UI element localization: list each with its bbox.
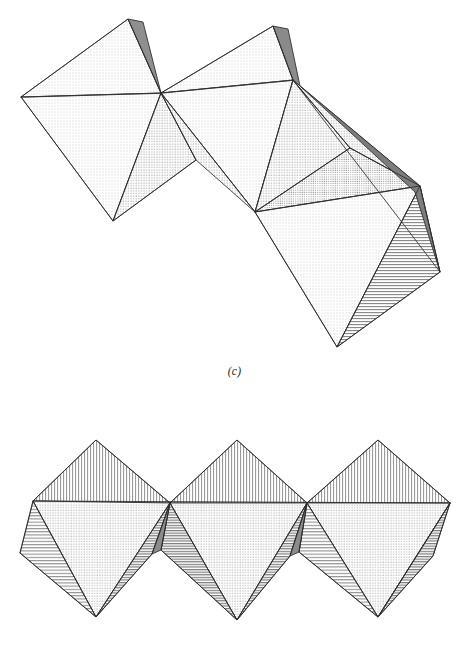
figure-d-drawing [0, 400, 469, 640]
octahedron-d-2 [161, 440, 307, 620]
octahedron-d-3 [299, 440, 450, 617]
octahedron-d-1 [20, 440, 170, 617]
figure-page: (c) [0, 0, 469, 666]
figure-d: (d) [0, 400, 469, 666]
face-d1-top [33, 440, 170, 503]
figure-c-drawing [0, 0, 469, 360]
face-d2-top [170, 440, 307, 503]
figure-c: (c) [0, 0, 469, 400]
face-d3-top [307, 440, 450, 503]
octahedron-c-1 [21, 19, 196, 221]
figure-c-caption: (c) [0, 365, 469, 377]
